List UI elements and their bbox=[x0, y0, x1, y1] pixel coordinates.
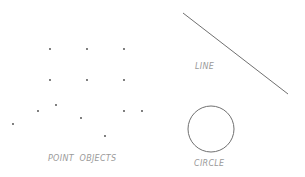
diagram-svg: POINT OBJECTS LINE CIRCLE bbox=[0, 0, 305, 177]
point-objects bbox=[12, 48, 143, 137]
point-object bbox=[49, 79, 51, 81]
point-object bbox=[141, 110, 143, 112]
line-object bbox=[183, 13, 288, 94]
point-objects-label: POINT OBJECTS bbox=[48, 154, 116, 163]
point-object bbox=[80, 117, 82, 119]
point-object bbox=[123, 48, 125, 50]
point-object bbox=[104, 135, 106, 137]
point-object bbox=[86, 79, 88, 81]
line-label: LINE bbox=[195, 62, 215, 71]
point-object bbox=[12, 123, 14, 125]
point-object bbox=[49, 48, 51, 50]
diagram-canvas: POINT OBJECTS LINE CIRCLE bbox=[0, 0, 305, 177]
circle-label: CIRCLE bbox=[194, 159, 225, 168]
point-object bbox=[37, 110, 39, 112]
point-object bbox=[123, 79, 125, 81]
point-object bbox=[86, 48, 88, 50]
point-object bbox=[123, 110, 125, 112]
point-object bbox=[55, 104, 57, 106]
circle-object bbox=[188, 106, 234, 152]
